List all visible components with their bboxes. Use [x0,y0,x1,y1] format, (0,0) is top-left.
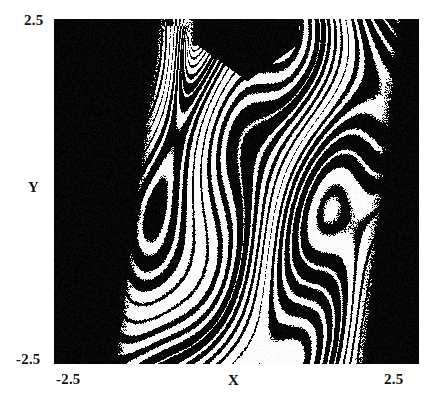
x-axis-max-tick-label: 2.5 [384,372,403,387]
fractal-basin-figure: 2.5 -2.5 Y -2.5 2.5 X [0,0,437,415]
x-axis-min-tick-label: -2.5 [56,372,81,387]
fractal-basin-canvas [54,19,419,364]
y-axis-title: Y [28,180,39,195]
y-axis-min-tick-label: -2.5 [16,352,41,367]
y-axis-max-tick-label: 2.5 [24,13,43,28]
x-axis-title: X [228,373,239,388]
plot-area [54,19,419,364]
